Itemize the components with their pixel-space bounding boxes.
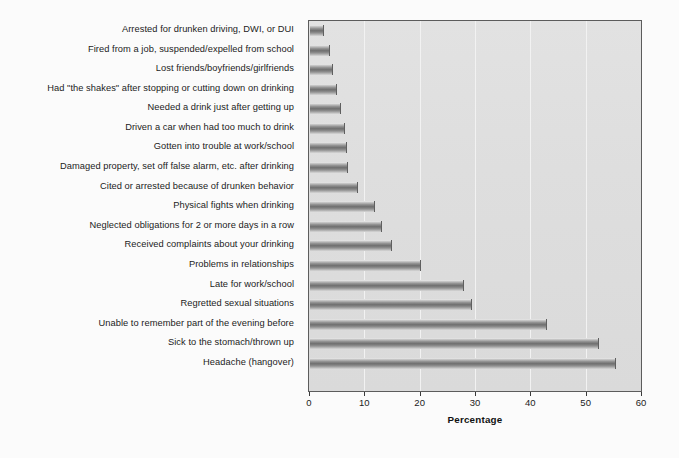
category-label: Cited or arrested because of drunken beh… <box>0 177 300 197</box>
plot-area <box>308 20 642 392</box>
bar <box>310 162 348 173</box>
bar-row <box>310 41 641 61</box>
x-tick-label: 0 <box>306 397 311 408</box>
category-label: Arrested for drunken driving, DWI, or DU… <box>0 20 300 40</box>
bar-row <box>310 138 641 158</box>
x-axis-title: Percentage <box>308 414 642 425</box>
category-label: Damaged property, set off false alarm, e… <box>0 157 300 177</box>
bar <box>310 319 547 330</box>
bar <box>310 45 330 56</box>
x-tick-mark <box>586 392 587 396</box>
bar-row <box>310 158 641 178</box>
x-tick-mark <box>420 392 421 396</box>
category-label: Problems in relationships <box>0 255 300 275</box>
category-label: Unable to remember part of the evening b… <box>0 314 300 334</box>
bar <box>310 123 345 134</box>
category-label-column: Arrested for drunken driving, DWI, or DU… <box>0 20 300 392</box>
bar-row <box>310 21 641 41</box>
category-label: Driven a car when had too much to drink <box>0 118 300 138</box>
x-tick-label: 40 <box>525 397 536 408</box>
x-axis: 0102030405060 <box>308 392 642 414</box>
bar <box>310 142 347 153</box>
bar <box>310 201 375 212</box>
x-tick-label: 60 <box>636 397 647 408</box>
x-tick-label: 50 <box>580 397 591 408</box>
x-tick-label: 10 <box>359 397 370 408</box>
bar <box>310 299 472 310</box>
x-tick-mark <box>475 392 476 396</box>
category-label: Gotten into trouble at work/school <box>0 137 300 157</box>
category-label: Physical fights when drinking <box>0 196 300 216</box>
bar <box>310 25 324 36</box>
x-tick-label: 20 <box>414 397 425 408</box>
bar <box>310 240 392 251</box>
bar-row <box>310 99 641 119</box>
category-label: Late for work/school <box>0 275 300 295</box>
bar-row <box>310 315 641 335</box>
bar-row <box>310 236 641 256</box>
category-label: Fired from a job, suspended/expelled fro… <box>0 40 300 60</box>
bar-row <box>310 217 641 237</box>
x-tick-mark <box>309 392 310 396</box>
bar-row <box>310 178 641 198</box>
bar <box>310 182 358 193</box>
bar-row <box>310 80 641 100</box>
x-tick-label: 30 <box>470 397 481 408</box>
bar-row <box>310 295 641 315</box>
bar-row <box>310 60 641 80</box>
bar-row <box>310 334 641 354</box>
bar-row <box>310 119 641 139</box>
x-tick-mark <box>364 392 365 396</box>
category-label: Lost friends/boyfriends/girlfriends <box>0 59 300 79</box>
x-tick-mark <box>530 392 531 396</box>
category-label: Headache (hangover) <box>0 353 300 373</box>
bar <box>310 338 599 349</box>
category-label: Neglected obligations for 2 or more days… <box>0 216 300 236</box>
bar <box>310 103 341 114</box>
x-tick-mark <box>641 392 642 396</box>
bar <box>310 260 421 271</box>
bar <box>310 358 616 369</box>
category-label: Needed a drink just after getting up <box>0 98 300 118</box>
bar-row <box>310 197 641 217</box>
bar-series <box>310 21 641 391</box>
category-label: Regretted sexual situations <box>0 294 300 314</box>
category-label: Received complaints about your drinking <box>0 235 300 255</box>
category-label: Had "the shakes" after stopping or cutti… <box>0 79 300 99</box>
bar-chart-figure: Arrested for drunken driving, DWI, or DU… <box>0 0 679 458</box>
bar-row <box>310 256 641 276</box>
bar-row <box>310 354 641 374</box>
category-label: Sick to the stomach/thrown up <box>0 333 300 353</box>
bar <box>310 280 464 291</box>
bar <box>310 84 337 95</box>
bar <box>310 221 382 232</box>
bar-row <box>310 276 641 296</box>
bar <box>310 64 333 75</box>
